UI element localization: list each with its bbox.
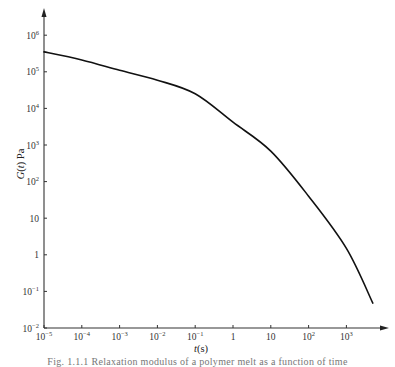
tick-label: 1 xyxy=(34,250,39,260)
tick-label: 10−2 xyxy=(149,330,165,342)
tick-label: 10−5 xyxy=(36,330,52,342)
axes xyxy=(44,14,384,328)
tick-label: 106 xyxy=(26,29,40,41)
tick-label: 10−4 xyxy=(74,330,91,342)
tick-label: 103 xyxy=(26,139,39,151)
y-ticks: 10−210−1110102103104105106 xyxy=(23,29,47,334)
figure-caption: Fig. 1.1.1 Relaxation modulus of a polym… xyxy=(0,356,395,367)
tick-label: 10−1 xyxy=(23,285,39,297)
tick-label: 104 xyxy=(26,102,40,114)
y-axis-arrow-icon xyxy=(42,8,47,17)
tick-label: 1 xyxy=(231,332,236,342)
tick-label: 10 xyxy=(30,214,40,224)
y-axis-title: G(t) Pa xyxy=(15,148,27,179)
tick-label: 103 xyxy=(340,330,353,342)
x-axis-title: t(s) xyxy=(194,343,209,355)
x-axis-arrow-icon xyxy=(380,326,389,331)
tick-label: 10−1 xyxy=(187,330,203,342)
tick-label: 10 xyxy=(266,332,276,342)
tick-label: 102 xyxy=(26,175,39,187)
tick-label: 105 xyxy=(26,65,39,77)
relaxation-curve xyxy=(44,52,373,303)
tick-label: 10−3 xyxy=(111,330,127,342)
tick-label: 102 xyxy=(302,330,315,342)
